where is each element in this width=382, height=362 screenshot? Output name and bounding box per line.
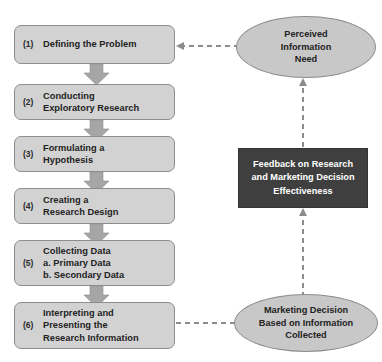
node-feedback-on-research[interactable]: Feedback on Research and Marketing Decis…: [238, 148, 368, 208]
step-number-2: (2): [23, 97, 43, 108]
arrowhead-to-perceived-need: [299, 78, 307, 86]
node-feedback-on-research-label: Feedback on Research and Marketing Decis…: [251, 158, 354, 197]
step-number-6: (6): [23, 320, 43, 331]
step-label-6: Interpreting and Presenting the Research…: [43, 307, 139, 344]
step-number-3: (3): [23, 149, 43, 160]
step-box-3[interactable]: (3) Formulating a Hypothesis: [14, 136, 175, 172]
step-label-5: Collecting Data a. Primary Data b. Secon…: [43, 245, 124, 282]
step-box-4[interactable]: (4) Creating a Research Design: [14, 188, 175, 224]
arrowhead-to-feedback: [299, 208, 307, 216]
step-label-1: Defining the Problem: [43, 38, 137, 50]
step-label-3: Formulating a Hypothesis: [43, 142, 104, 167]
step-box-5[interactable]: (5) Collecting Data a. Primary Data b. S…: [14, 240, 175, 286]
node-perceived-information-need[interactable]: Perceived Information Need: [236, 16, 376, 78]
flowchart-diagram: (1) Defining the Problem (2) Conducting …: [0, 0, 382, 362]
step-box-2[interactable]: (2) Conducting Exploratory Research: [14, 84, 175, 120]
step-label-4: Creating a Research Design: [43, 194, 118, 219]
arrow-step1-to-step2: [84, 64, 109, 85]
node-perceived-information-need-label: Perceived Information Need: [281, 28, 332, 66]
step-number-4: (4): [23, 201, 43, 212]
node-marketing-decision[interactable]: Marketing Decision Based on Information …: [234, 294, 378, 352]
step-box-1[interactable]: (1) Defining the Problem: [14, 25, 175, 64]
step-box-6[interactable]: (6) Interpreting and Presenting the Rese…: [14, 302, 175, 349]
step-number-5: (5): [23, 258, 43, 269]
step-label-2: Conducting Exploratory Research: [43, 90, 139, 115]
step-number-1: (1): [23, 39, 43, 50]
arrowhead-to-step1: [176, 42, 184, 50]
node-marketing-decision-label: Marketing Decision Based on Information …: [259, 304, 353, 342]
